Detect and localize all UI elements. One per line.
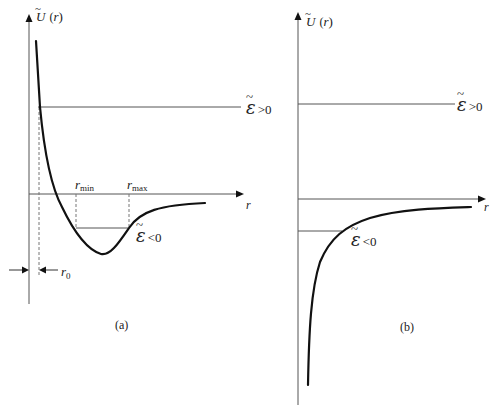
panel-a-x-axis-arrow-icon	[236, 191, 244, 198]
panel-b-caption: (b)	[400, 320, 414, 334]
panel-a-rmax-label: rmax	[127, 177, 148, 193]
panel-b-x-axis-label: r	[484, 200, 489, 214]
panel-a-r0-label: r0	[61, 264, 71, 281]
panel-b-energy-positive-tilde: ~	[457, 86, 464, 101]
panel-a-y-axis-arrow-icon	[26, 14, 33, 22]
panel-a: U(r) ~ r ε>0 ~ ε<0 ~ rmin rmax r0 (a)	[9, 2, 272, 332]
panel-a-energy-positive-tilde: ~	[246, 89, 253, 104]
panel-a-rmin-label: rmin	[75, 177, 95, 193]
panel-b-y-axis-arrow-icon	[295, 12, 302, 20]
potential-energy-diagram: U(r) ~ r ε>0 ~ ε<0 ~ rmin rmax r0 (a)	[0, 0, 494, 414]
panel-b-potential-curve	[308, 207, 471, 385]
panel-b: U(r) ~ r ε>0 ~ ε<0 ~ (b)	[295, 7, 490, 405]
panel-a-caption: (a)	[115, 318, 128, 332]
panel-b-energy-negative-tilde: ~	[351, 221, 358, 236]
panel-a-potential-curve	[36, 41, 205, 254]
panel-a-y-axis-tilde: ~	[35, 2, 41, 14]
panel-a-r0-right-arrow-icon	[39, 267, 46, 274]
panel-a-energy-negative-tilde: ~	[136, 217, 143, 232]
panel-a-x-axis-label: r	[246, 198, 251, 212]
panel-b-y-axis-tilde: ~	[305, 7, 311, 19]
panel-a-r0-left-arrow-icon	[22, 267, 29, 274]
